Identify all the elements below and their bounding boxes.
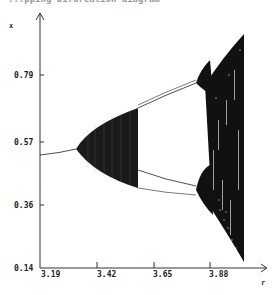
x-axis-label: r — [261, 279, 265, 287]
y-tick-0.14: 0.14 — [14, 264, 33, 273]
y-tick-0.36: 0.36 — [14, 201, 33, 210]
y-ticks: 0.79 0.57 0.36 0.14 x — [9, 22, 44, 273]
y-tick-0.79: 0.79 — [14, 71, 33, 80]
x-ticks: 3.19 3.42 3.65 3.88 r — [41, 262, 265, 287]
bifurcation-chart: 0.79 0.57 0.36 0.14 x 3.19 3.42 3.65 3.8… — [0, 0, 280, 295]
x-tick-3.42: 3.42 — [97, 270, 116, 279]
y-tick-0.57: 0.57 — [14, 138, 33, 147]
x-tick-3.88: 3.88 — [209, 270, 228, 279]
x-tick-3.65: 3.65 — [153, 270, 172, 279]
y-axis-label: x — [9, 22, 14, 30]
bifurcation-data — [40, 34, 244, 262]
x-tick-3.19: 3.19 — [41, 270, 60, 279]
